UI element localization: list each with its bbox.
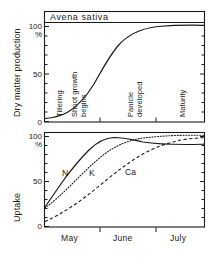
bottom-ytick-50: 50 — [18, 177, 42, 186]
bottom-panel-yticks-right — [200, 137, 205, 218]
xtick-label-june: June — [113, 233, 133, 243]
top-ytick-50: 50 — [18, 70, 42, 79]
figure-root: Avena sativa Dry matter production 100 %… — [0, 0, 217, 260]
bottom-yunit: % — [18, 140, 42, 149]
bottom-panel-frame — [45, 133, 205, 228]
stage-label-shoot-growth: Shoot growth — [70, 72, 79, 117]
bottom-ytick-0: 0 — [18, 222, 42, 231]
series-ca-line — [45, 138, 204, 222]
chart-title: Avena sativa — [50, 12, 109, 22]
top-panel-yticks-right — [200, 36, 205, 112]
bottom-panel-yticks — [45, 137, 50, 227]
stage-label-maturity: Maturity — [178, 90, 187, 117]
stage-label-tillering: Tillering — [55, 90, 64, 117]
top-panel-xticks — [100, 118, 156, 123]
bottom-panel-ylabel: Uptake — [12, 193, 22, 222]
xtick-label-may: May — [61, 233, 78, 243]
chart-canvas — [0, 0, 217, 260]
series-label-n: N — [62, 168, 68, 178]
top-ytick-0: 0 — [18, 118, 42, 127]
xtick-label-july: July — [170, 233, 186, 243]
series-label-ca: Ca — [125, 167, 136, 177]
bottom-panel-xticks — [100, 227, 156, 232]
top-panel-yticks — [45, 27, 50, 122]
series-label-k: K — [89, 168, 95, 178]
top-yunit: % — [18, 30, 42, 39]
stage-label-panicle: Panicle — [126, 92, 135, 117]
stage-label-panicle-line2: developed — [135, 81, 144, 117]
stage-label-shoot-growth-line2: begins — [79, 94, 88, 117]
